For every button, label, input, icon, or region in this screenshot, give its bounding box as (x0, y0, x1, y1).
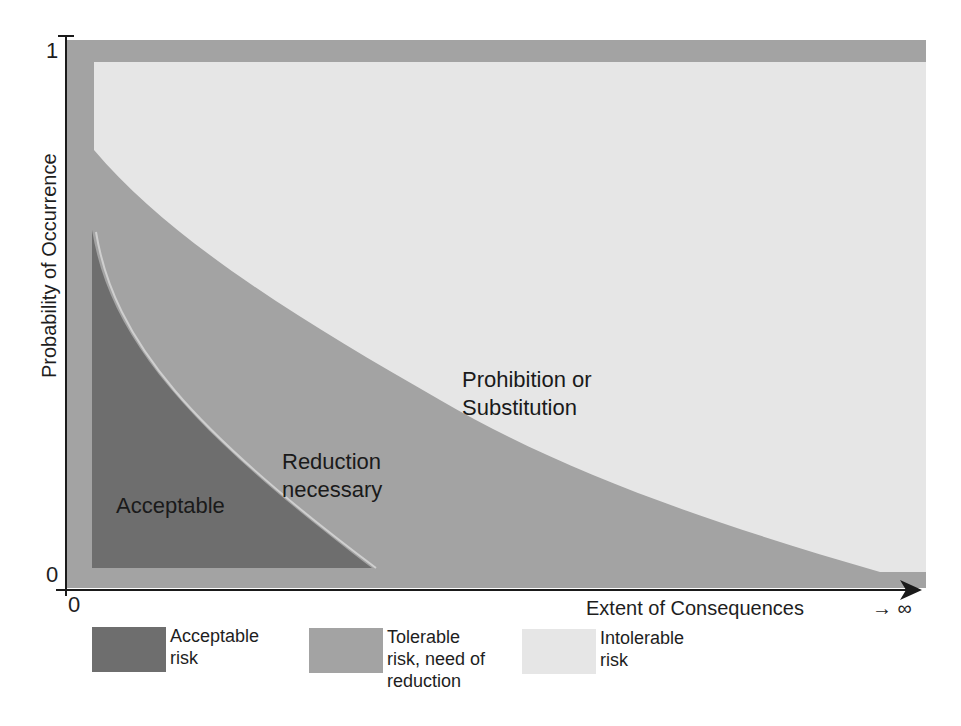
legend-label-acceptable: Acceptable risk (170, 625, 259, 669)
risk-diagram (0, 0, 961, 726)
legend-item-acceptable: Acceptable risk (92, 625, 259, 672)
legend-item-intolerable: Intolerable risk (522, 627, 684, 674)
acceptable-region-label: Acceptable (116, 492, 225, 520)
y-tick-max: 1 (46, 38, 58, 64)
legend-swatch-intolerable (522, 629, 596, 674)
legend-swatch-acceptable (92, 627, 166, 672)
legend-swatch-tolerable (309, 628, 383, 673)
legend-label-tolerable: Tolerable risk, need of reduction (387, 626, 485, 692)
y-axis-label: Probability of Occurrence (38, 153, 61, 378)
x-tick-min: 0 (68, 592, 80, 618)
infinity-marker: → ∞ (872, 597, 912, 620)
x-axis-label: Extent of Consequences (586, 597, 804, 620)
legend-item-tolerable: Tolerable risk, need of reduction (309, 626, 485, 692)
legend-label-intolerable: Intolerable risk (600, 627, 684, 671)
tolerable-region-label: Reduction necessary (282, 448, 382, 504)
intolerable-region-label: Prohibition or Substitution (462, 366, 592, 422)
y-tick-min: 0 (46, 562, 58, 588)
